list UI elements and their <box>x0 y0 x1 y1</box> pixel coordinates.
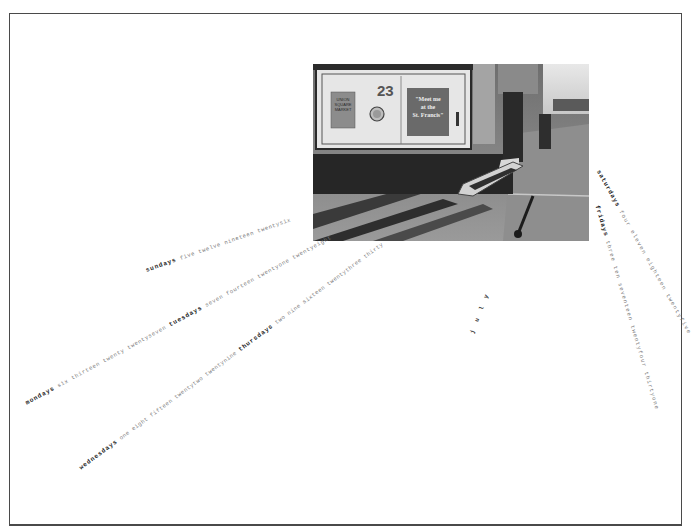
svg-text:23: 23 <box>377 82 394 99</box>
svg-text:MARKET: MARKET <box>335 107 352 112</box>
cable-car-photo: UNION SQUARE MARKET 23 "Meet me at the S… <box>313 64 589 241</box>
svg-text:at the: at the <box>421 104 436 110</box>
svg-text:St. Francis": St. Francis" <box>413 112 444 118</box>
svg-text:"Meet me: "Meet me <box>415 96 441 102</box>
cable-car-image: UNION SQUARE MARKET 23 "Meet me at the S… <box>313 64 589 241</box>
